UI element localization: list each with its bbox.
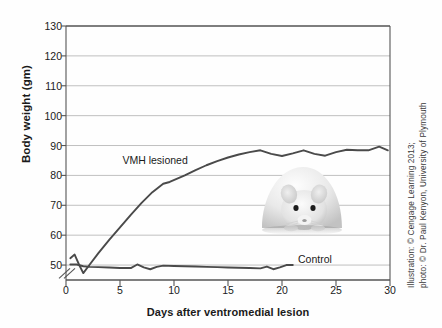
data-series-lines: [70, 147, 388, 273]
axis-ticks: [61, 26, 390, 286]
y-axis-break-icon: [59, 268, 75, 278]
credit-line-1: Illustration: © Cengage Learning 2013;: [407, 142, 416, 288]
figure-container: Body weight (gm) 5060708090100110120130 …: [0, 0, 442, 328]
credit-line-2: photo: © Dr. Paul Kenyon, University of …: [419, 102, 428, 288]
axis-frame: [66, 26, 390, 280]
gridlines: [66, 26, 390, 265]
series-label-control: Control: [298, 253, 332, 265]
plot-area: [0, 0, 442, 328]
series-label-vmh-lesioned: VMH lesioned: [122, 154, 187, 166]
